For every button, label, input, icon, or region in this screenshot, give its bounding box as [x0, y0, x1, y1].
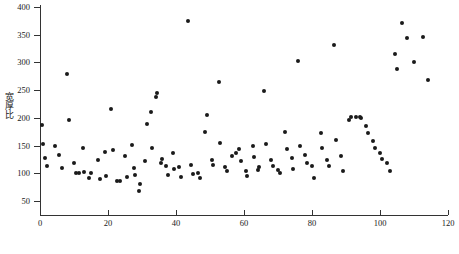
data-point: [371, 139, 375, 143]
x-tick-label: 20: [93, 219, 123, 228]
data-point: [378, 151, 382, 155]
data-point: [251, 144, 255, 148]
data-point: [257, 165, 261, 169]
data-point: [177, 165, 181, 169]
data-point: [123, 154, 127, 158]
data-point: [291, 167, 295, 171]
y-tick-label: 350: [0, 31, 30, 40]
data-point: [210, 158, 214, 162]
data-point: [245, 174, 249, 178]
data-point: [96, 158, 100, 162]
data-point: [43, 156, 47, 160]
data-point: [283, 130, 287, 134]
data-point: [218, 141, 222, 145]
data-point: [45, 164, 49, 168]
data-point: [149, 110, 153, 114]
data-point: [191, 172, 195, 176]
data-point: [305, 161, 309, 165]
data-point: [421, 35, 425, 39]
data-point: [179, 175, 183, 179]
data-point: [89, 171, 93, 175]
data-point: [332, 43, 336, 47]
y-tick-label: 300: [0, 58, 30, 67]
plot-data-area: [40, 7, 448, 215]
data-point: [77, 171, 81, 175]
data-point: [81, 146, 85, 150]
data-point: [138, 182, 142, 186]
data-point: [312, 176, 316, 180]
data-point: [285, 147, 289, 151]
data-point: [269, 158, 273, 162]
data-point: [339, 154, 343, 158]
data-point: [98, 177, 102, 181]
data-point: [189, 163, 193, 167]
data-point: [164, 164, 168, 168]
data-point: [244, 169, 248, 173]
data-point: [290, 156, 294, 160]
data-point: [334, 138, 338, 142]
data-point: [325, 158, 329, 162]
data-point: [72, 161, 76, 165]
x-tick-label: 80: [297, 219, 327, 228]
y-tick-label: 150: [0, 142, 30, 151]
data-point: [132, 166, 136, 170]
data-point: [143, 159, 147, 163]
data-point: [310, 164, 314, 168]
data-point: [239, 159, 243, 163]
data-point: [393, 52, 397, 56]
data-point: [400, 21, 404, 25]
data-point: [159, 161, 163, 165]
data-point: [252, 155, 256, 159]
data-point: [65, 72, 69, 76]
data-point: [203, 130, 207, 134]
data-point: [53, 144, 57, 148]
data-point: [366, 131, 370, 135]
data-point: [380, 157, 384, 161]
data-point: [109, 107, 113, 111]
data-point: [87, 176, 91, 180]
data-point: [67, 118, 71, 122]
data-point: [160, 157, 164, 161]
data-point: [111, 148, 115, 152]
y-tick-label: 200: [0, 114, 30, 123]
data-point: [298, 144, 302, 148]
data-point: [40, 123, 44, 127]
data-point: [296, 59, 300, 63]
x-tick-label: 120: [433, 219, 459, 228]
data-point: [225, 169, 229, 173]
data-point: [426, 78, 430, 82]
y-tick-label: 250: [0, 86, 30, 95]
data-point: [166, 173, 170, 177]
data-point: [57, 153, 61, 157]
data-point: [150, 146, 154, 150]
data-point: [327, 164, 331, 168]
x-tick-label: 0: [25, 219, 55, 228]
x-tick-label: 60: [229, 219, 259, 228]
data-point: [196, 171, 200, 175]
data-point: [359, 116, 363, 120]
data-point: [103, 150, 107, 154]
data-point: [262, 89, 266, 93]
data-point: [303, 153, 307, 157]
data-point: [211, 163, 215, 167]
data-point: [133, 173, 137, 177]
data-point: [186, 19, 190, 23]
figure-caption: [0, 243, 448, 254]
y-tick-label: 400: [0, 3, 30, 12]
data-point: [373, 146, 377, 150]
data-point: [172, 167, 176, 171]
data-point: [349, 115, 353, 119]
data-point: [388, 169, 392, 173]
x-axis-line: [40, 215, 448, 216]
data-point: [198, 176, 202, 180]
data-point: [405, 36, 409, 40]
data-point: [237, 147, 241, 151]
data-point: [145, 122, 149, 126]
data-point: [137, 189, 141, 193]
x-tick-label: 40: [161, 219, 191, 228]
data-point: [341, 169, 345, 173]
data-point: [364, 124, 368, 128]
data-point: [412, 60, 416, 64]
data-point: [125, 175, 129, 179]
